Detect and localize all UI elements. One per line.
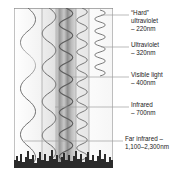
label-ultraviolet: Ultraviolet – 320nm (131, 41, 159, 57)
spectrum-figure: “Hard” ultraviolet – 220nm Ultraviolet –… (0, 0, 191, 185)
label-hard-ultraviolet: “Hard” ultraviolet – 220nm (131, 9, 158, 33)
label-far-infrared: Far infrared – 1,100–2,300nm (125, 135, 169, 151)
leader-lines (0, 0, 191, 185)
label-visible-light: Visible light – 400nm (131, 71, 163, 87)
label-infrared: Infrared – 700nm (131, 101, 156, 117)
